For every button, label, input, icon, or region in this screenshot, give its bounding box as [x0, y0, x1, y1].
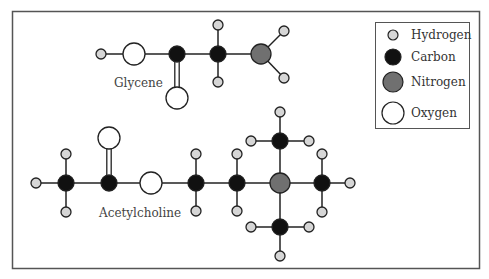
carbon-atom-icon	[169, 46, 185, 62]
hydrogen-atom-icon	[96, 49, 106, 59]
molecule-diagram: Glycene Acetylcholine Hydrogen Carbon Ni…	[0, 0, 489, 279]
hydrogen-atom-icon	[213, 77, 223, 87]
carbon-atom-icon	[58, 175, 74, 191]
hydrogen-atom-icon	[61, 207, 71, 217]
hydrogen-atom-icon	[246, 136, 256, 146]
legend-label-hydrogen: Hydrogen	[411, 28, 472, 42]
hydrogen-atom-icon	[317, 207, 327, 217]
oxygen-atom-icon	[123, 43, 145, 65]
carbon-atom-icon	[101, 175, 117, 191]
legend-carbon-icon	[385, 49, 401, 65]
hydrogen-atom-icon	[345, 178, 355, 188]
hydrogen-atom-icon	[232, 149, 242, 159]
hydrogen-atom-icon	[279, 26, 289, 36]
hydrogen-atom-icon	[246, 222, 256, 232]
legend-label-nitrogen: Nitrogen	[411, 75, 466, 89]
carbon-atom-icon	[188, 175, 204, 191]
legend-hydrogen-icon	[388, 30, 398, 40]
hydrogen-atom-icon	[275, 251, 285, 261]
carbon-atom-icon	[272, 133, 288, 149]
hydrogen-atom-icon	[275, 107, 285, 117]
carbon-atom-icon	[229, 175, 245, 191]
hydrogen-atom-icon	[317, 149, 327, 159]
hydrogen-atom-icon	[31, 178, 41, 188]
carbon-atom-icon	[272, 219, 288, 235]
molecule-label-acetylcholine: Acetylcholine	[98, 206, 181, 220]
hydrogen-atom-icon	[232, 206, 242, 216]
hydrogen-atom-icon	[61, 149, 71, 159]
carbon-atom-icon	[314, 175, 330, 191]
oxygen-atom-icon	[140, 172, 162, 194]
legend: Hydrogen Carbon Nitrogen Oxygen	[376, 23, 472, 129]
legend-label-carbon: Carbon	[411, 50, 456, 64]
hydrogen-atom-icon	[191, 206, 201, 216]
legend-label-oxygen: Oxygen	[411, 106, 457, 120]
hydrogen-atom-icon	[279, 73, 289, 83]
nitrogen-atom-icon	[270, 173, 290, 193]
nitrogen-atom-icon	[251, 44, 271, 64]
molecule-label-glycene: Glycene	[114, 76, 163, 90]
oxygen-atom-icon	[166, 87, 188, 109]
hydrogen-atom-icon	[304, 136, 314, 146]
hydrogen-atom-icon	[304, 222, 314, 232]
legend-oxygen-icon	[382, 102, 404, 124]
oxygen-atom-icon	[98, 127, 120, 149]
legend-nitrogen-icon	[383, 72, 403, 92]
hydrogen-atom-icon	[191, 149, 201, 159]
hydrogen-atom-icon	[213, 20, 223, 30]
carbon-atom-icon	[210, 46, 226, 62]
